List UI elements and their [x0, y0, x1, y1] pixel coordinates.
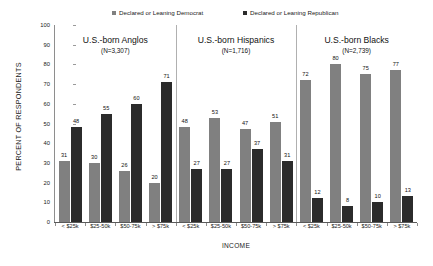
y-axis-tick-label: 50 — [22, 121, 50, 127]
bar-category: 7510 — [357, 25, 387, 222]
bar-category: 5131 — [266, 25, 296, 222]
bar-value-label: 27 — [224, 160, 230, 166]
chart-legend: Declared or Leaning Democrat Declared or… — [0, 9, 433, 23]
bar-value-label: 12 — [314, 189, 320, 195]
bar-category: 4737 — [236, 25, 266, 222]
bar: 51 — [270, 122, 281, 222]
bar-value-label: 10 — [375, 193, 381, 199]
bar: 20 — [149, 183, 160, 222]
bar-value-label: 31 — [284, 152, 290, 158]
bar: 37 — [252, 149, 263, 222]
bar-value-label: 30 — [91, 154, 97, 160]
bar: 27 — [221, 169, 232, 222]
x-axis-tick-mark — [55, 223, 56, 226]
bar-group: U.S.-born Hispanics(N=1,716)482753274737… — [176, 25, 297, 222]
y-axis-tick-label: 80 — [22, 61, 50, 67]
x-axis-tick-label: > $75k — [145, 223, 175, 229]
bar: 27 — [191, 169, 202, 222]
bar: 72 — [300, 80, 311, 222]
bar-value-label: 48 — [73, 118, 79, 124]
x-axis-title: INCOME — [55, 242, 417, 249]
y-axis-tick-label: 60 — [22, 101, 50, 107]
bar-value-label: 53 — [212, 109, 218, 115]
bar-group: U.S.-born Anglos(N=3,307)314830552660207… — [55, 25, 176, 222]
legend-swatch-democrat — [112, 11, 116, 15]
bar: 55 — [101, 114, 112, 222]
x-axis-categories: < $25k$25-50k$50-75k> $75k< $25k$25-50k$… — [55, 223, 417, 237]
legend-label-democrat: Declared or Leaning Democrat — [119, 9, 203, 16]
bar-value-label: 55 — [103, 105, 109, 111]
bar: 47 — [240, 129, 251, 222]
y-axis-tick-label: 90 — [22, 42, 50, 48]
bar-value-label: 60 — [133, 95, 139, 101]
bar-category: 3055 — [85, 25, 115, 222]
bar-category: 7713 — [387, 25, 417, 222]
bar: 30 — [89, 163, 100, 222]
x-axis-tick-label: > $75k — [266, 223, 296, 229]
bar-value-label: 20 — [151, 174, 157, 180]
x-axis-tick-mark — [115, 223, 116, 226]
bar-chart: Declared or Leaning Democrat Declared or… — [0, 0, 433, 266]
x-axis-tick-label: $50-75k — [115, 223, 145, 229]
x-axis-tick-mark — [85, 223, 86, 226]
x-axis-tick-mark — [357, 223, 358, 226]
bar-value-label: 27 — [194, 160, 200, 166]
bar-category: 5327 — [206, 25, 236, 222]
bar: 48 — [71, 127, 82, 222]
bar: 53 — [209, 118, 220, 222]
x-axis-tick-mark — [236, 223, 237, 226]
bar: 13 — [402, 196, 413, 222]
x-axis-tick-label: $25-50k — [326, 223, 356, 229]
bar: 10 — [372, 202, 383, 222]
group-separator — [296, 25, 297, 222]
bar-value-label: 48 — [182, 118, 188, 124]
bar: 12 — [312, 198, 323, 222]
x-axis-tick-label: $25-50k — [206, 223, 236, 229]
bar-category: 4827 — [176, 25, 206, 222]
bar-group: U.S.-born Blacks(N=2,739)721280875107713 — [296, 25, 417, 222]
bar-value-label: 77 — [393, 61, 399, 67]
y-axis-tick-label: 30 — [22, 160, 50, 166]
bar: 8 — [342, 206, 353, 222]
bar-value-label: 51 — [272, 113, 278, 119]
x-axis-tick-mark — [296, 223, 297, 226]
bar-value-label: 47 — [242, 120, 248, 126]
bar: 31 — [59, 161, 70, 222]
bar: 77 — [390, 70, 401, 222]
x-axis-tick-label: $50-75k — [357, 223, 387, 229]
x-axis-tick-mark — [387, 223, 388, 226]
y-axis-tick-label: 0 — [22, 219, 50, 225]
bar-value-label: 71 — [163, 73, 169, 79]
bar: 26 — [119, 171, 130, 222]
plot-area: U.S.-born Anglos(N=3,307)314830552660207… — [55, 25, 417, 222]
legend-label-republican: Declared or Leaning Republican — [250, 9, 338, 16]
bar-value-label: 75 — [363, 65, 369, 71]
y-axis-tick-label: 100 — [22, 22, 50, 28]
bar-value-label: 37 — [254, 140, 260, 146]
legend-swatch-republican — [243, 11, 247, 15]
bar-category: 3148 — [55, 25, 85, 222]
x-axis-tick-label: < $25k — [296, 223, 326, 229]
bar-category: 7212 — [296, 25, 326, 222]
bar-category: 2660 — [115, 25, 145, 222]
legend-item-republican: Declared or Leaning Republican — [243, 9, 338, 16]
bar-category: 2071 — [145, 25, 175, 222]
bar: 31 — [282, 161, 293, 222]
x-axis-tick-label: < $25k — [176, 223, 206, 229]
y-axis-ticks: 1009080706050403020100 — [22, 25, 50, 222]
x-axis-tick-mark — [206, 223, 207, 226]
bar: 60 — [131, 104, 142, 222]
bar-value-label: 72 — [302, 71, 308, 77]
x-axis-tick-mark — [327, 223, 328, 226]
y-axis-tick-label: 40 — [22, 140, 50, 146]
y-axis-tick-label: 10 — [22, 199, 50, 205]
bar-value-label: 8 — [346, 197, 349, 203]
bar: 80 — [330, 64, 341, 222]
bar-value-label: 13 — [405, 187, 411, 193]
x-axis-tick-label: < $25k — [55, 223, 85, 229]
x-axis-tick-mark — [146, 223, 147, 226]
group-separator — [176, 25, 177, 222]
bar: 75 — [360, 74, 371, 222]
x-axis-tick-label: $50-75k — [236, 223, 266, 229]
y-axis-tick-label: 20 — [22, 180, 50, 186]
